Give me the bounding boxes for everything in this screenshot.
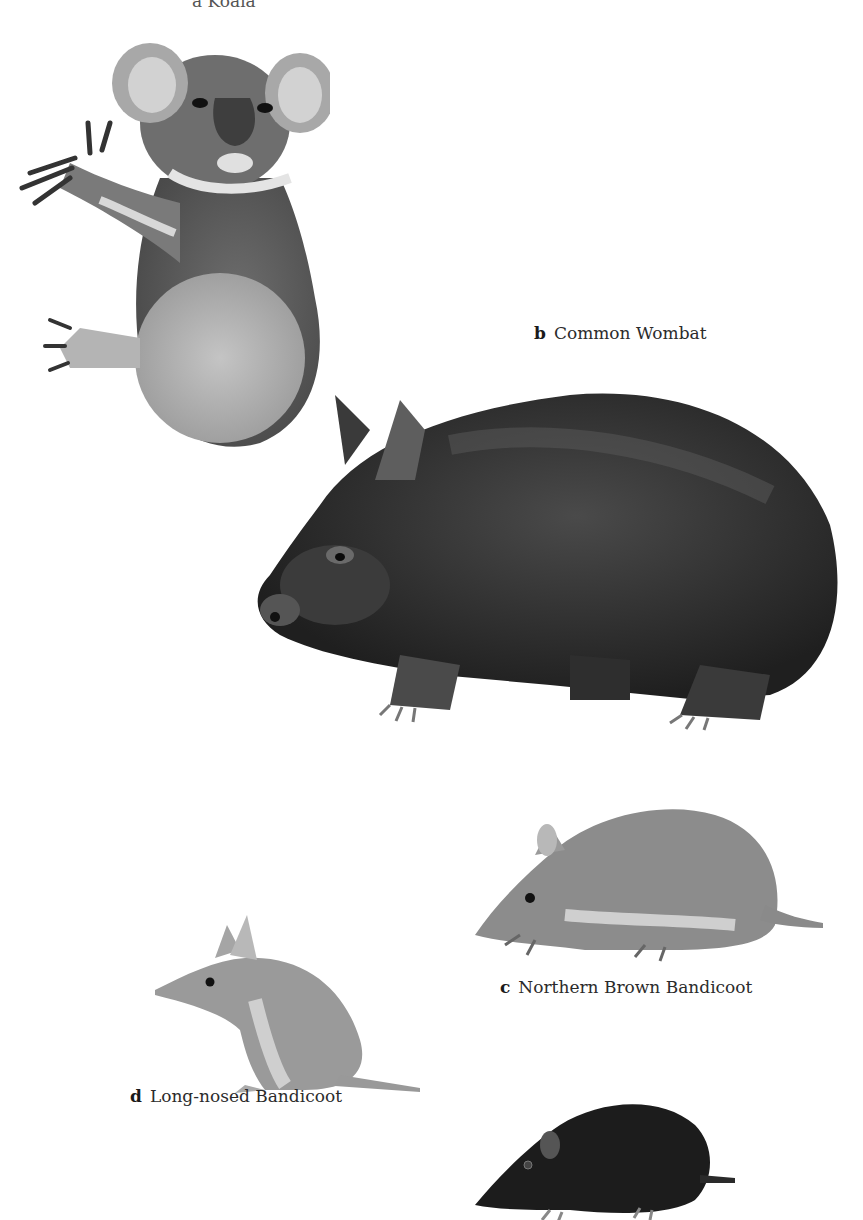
label-letter: a [192, 0, 202, 11]
label-name: Common Wombat [554, 323, 707, 343]
label-name: Koala [208, 0, 256, 11]
long-nosed-bandicoot-illustration [155, 910, 425, 1095]
label-name: Long-nosed Bandicoot [150, 1086, 342, 1106]
label-letter: b [534, 323, 546, 343]
label-letter: c [500, 977, 510, 997]
label-common-wombat: bCommon Wombat [534, 323, 706, 343]
label-northern-brown-bandicoot: cNorthern Brown Bandicoot [500, 977, 752, 997]
label-letter: d [130, 1086, 142, 1106]
northern-brown-bandicoot-illustration [465, 795, 825, 970]
label-name: Northern Brown Bandicoot [518, 977, 752, 997]
common-wombat-illustration [250, 385, 850, 755]
dark-bandicoot-illustration [470, 1080, 740, 1220]
label-long-nosed-bandicoot: dLong-nosed Bandicoot [130, 1086, 342, 1106]
label-koala-partial: a Koala [192, 0, 256, 11]
